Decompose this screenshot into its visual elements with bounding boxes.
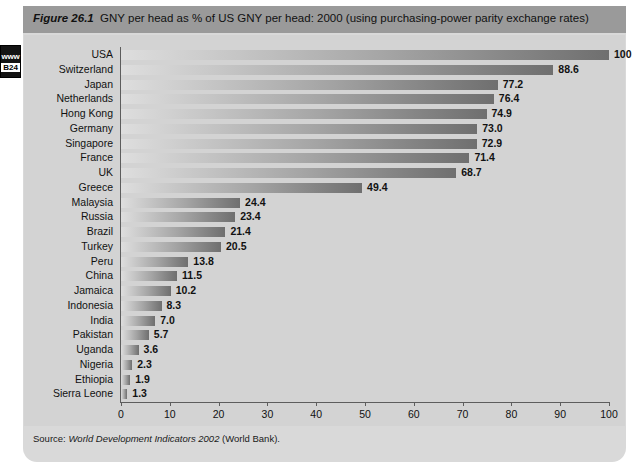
category-label: USA — [0, 48, 113, 60]
bar-value-label: 10.2 — [176, 284, 196, 297]
bar-value-label: 20.5 — [226, 240, 246, 253]
bar-value-label: 73.0 — [482, 122, 502, 135]
bar — [121, 50, 609, 60]
x-axis-tick — [609, 402, 610, 406]
x-axis-tick-label: 60 — [399, 408, 429, 421]
x-axis-tick — [365, 402, 366, 406]
category-label: Japan — [0, 78, 113, 90]
bar-value-label: 74.9 — [492, 107, 512, 120]
category-label: France — [0, 151, 113, 163]
bar-value-label: 2.3 — [137, 358, 152, 371]
bar-row: France71.4 — [24, 151, 625, 167]
category-label: Sierra Leone — [0, 387, 113, 399]
source-title: World Development Indicators 2002 — [68, 433, 219, 444]
x-axis-tick — [511, 402, 512, 406]
category-label: Jamaica — [0, 284, 113, 296]
bar-value-label: 11.5 — [182, 269, 202, 282]
bar-value-label: 7.0 — [160, 314, 175, 327]
bar — [121, 109, 487, 119]
bar-row: Singapore72.9 — [24, 137, 625, 153]
figure-screenshot: www B24 Figure 26.1 GNY per head as % of… — [0, 0, 638, 474]
x-axis-tick — [414, 402, 415, 406]
figure-title-text: GNY per head as % of US GNY per head: 20… — [100, 12, 589, 24]
bar — [121, 271, 177, 281]
category-label: Peru — [0, 255, 113, 267]
x-axis-tick-label: 20 — [204, 408, 234, 421]
bar-row: Russia23.4 — [24, 210, 625, 226]
x-axis-tick-label: 0 — [106, 408, 136, 421]
bar-row: Malaysia24.4 — [24, 196, 625, 212]
figure-title-bar: Figure 26.1 GNY per head as % of US GNY … — [23, 6, 626, 33]
category-label: Malaysia — [0, 196, 113, 208]
category-label: UK — [0, 166, 113, 178]
bar-value-label: 13.8 — [193, 255, 213, 268]
bar — [121, 65, 553, 75]
bar-value-label: 100 — [614, 48, 632, 61]
x-axis-tick — [121, 402, 122, 406]
bar — [121, 360, 132, 370]
category-label: Nigeria — [0, 358, 113, 370]
bar-value-label: 88.6 — [558, 63, 578, 76]
x-axis-tick — [560, 402, 561, 406]
bar-row: UK68.7 — [24, 166, 625, 182]
source-suffix: (World Bank). — [222, 433, 280, 444]
bar — [121, 242, 221, 252]
bar — [121, 124, 477, 134]
category-label: Pakistan — [0, 328, 113, 340]
bar — [121, 301, 162, 311]
bar-row: Netherlands76.4 — [24, 92, 625, 108]
bar-value-label: 21.4 — [230, 225, 250, 238]
x-axis-tick-label: 90 — [545, 408, 575, 421]
bar — [121, 80, 498, 90]
bar — [121, 198, 240, 208]
bar — [121, 286, 171, 296]
bar-row: Turkey20.5 — [24, 240, 625, 256]
bar-row: Nigeria2.3 — [24, 358, 625, 374]
bar-row: Ethiopia1.9 — [24, 373, 625, 389]
bar — [121, 375, 130, 385]
x-axis-tick-label: 100 — [594, 408, 624, 421]
category-label: Ethiopia — [0, 373, 113, 385]
bar — [121, 183, 362, 193]
figure-title: Figure 26.1 GNY per head as % of US GNY … — [33, 12, 589, 24]
bar-row: China11.5 — [24, 269, 625, 285]
category-label: Switzerland — [0, 63, 113, 75]
figure-panel: Figure 26.1 GNY per head as % of US GNY … — [23, 6, 626, 462]
bar — [121, 94, 494, 104]
bar-value-label: 76.4 — [499, 92, 519, 105]
bar-value-label: 3.6 — [144, 343, 159, 356]
category-label: China — [0, 269, 113, 281]
x-axis-tick — [219, 402, 220, 406]
plot-area: USA100Switzerland88.6Japan77.2Netherland… — [24, 35, 625, 426]
bar-row: Jamaica10.2 — [24, 284, 625, 300]
x-axis-tick-label: 50 — [350, 408, 380, 421]
source-prefix: Source: — [33, 433, 66, 444]
bar-row: Brazil21.4 — [24, 225, 625, 241]
x-axis-tick — [170, 402, 171, 406]
bar — [121, 227, 225, 237]
category-label: Hong Kong — [0, 107, 113, 119]
x-axis-tick-label: 70 — [448, 408, 478, 421]
bar-value-label: 71.4 — [474, 151, 494, 164]
bar-row: Indonesia8.3 — [24, 299, 625, 315]
figure-number: Figure 26.1 — [33, 12, 94, 24]
x-axis-tick — [463, 402, 464, 406]
bar-row: USA100 — [24, 48, 625, 64]
bar — [121, 153, 469, 163]
bar — [121, 139, 477, 149]
bar-value-label: 77.2 — [503, 78, 523, 91]
bar-row: Sierra Leone1.3 — [24, 387, 625, 403]
bar — [121, 345, 139, 355]
bar-row: Peru13.8 — [24, 255, 625, 271]
bar — [121, 389, 127, 399]
category-label: Indonesia — [0, 299, 113, 311]
bar-row: Japan77.2 — [24, 78, 625, 94]
bar-value-label: 1.9 — [135, 373, 150, 386]
bar-row: India7.0 — [24, 314, 625, 330]
bar — [121, 168, 456, 178]
bar-row: Hong Kong74.9 — [24, 107, 625, 123]
source-note: Source: World Development Indicators 200… — [33, 433, 280, 444]
bar-row: Switzerland88.6 — [24, 63, 625, 79]
bar-row: Greece49.4 — [24, 181, 625, 197]
category-label: Germany — [0, 122, 113, 134]
